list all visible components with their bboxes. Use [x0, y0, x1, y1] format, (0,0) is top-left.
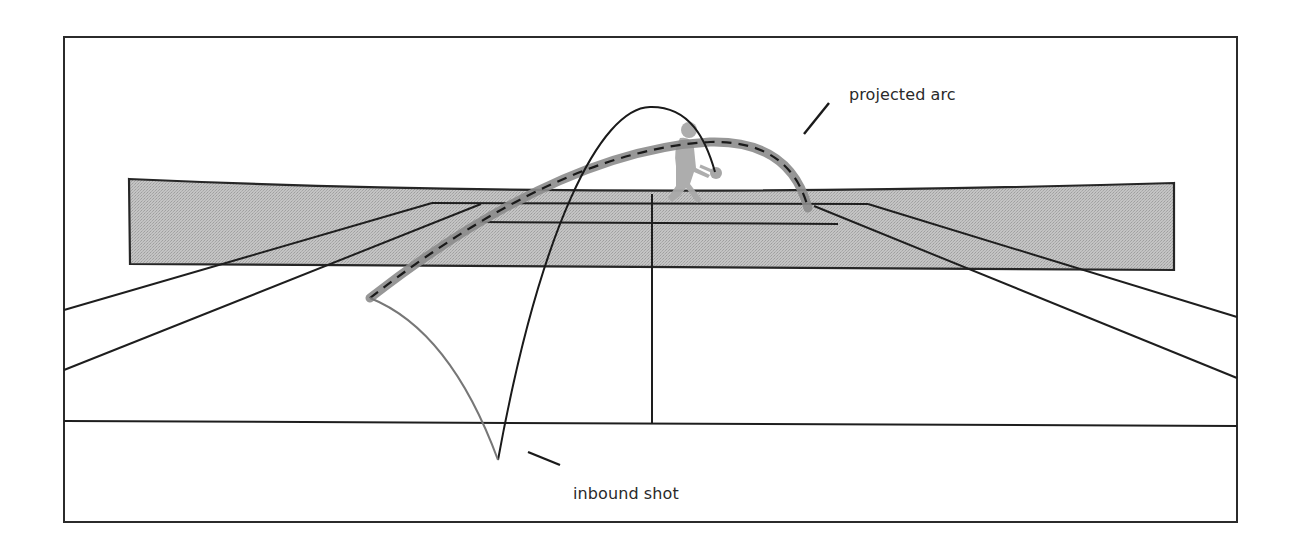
- inbound-shot-leader: [528, 452, 560, 465]
- diagram-canvas: [0, 0, 1304, 550]
- court-diagram: projected arc inbound shot: [0, 0, 1304, 550]
- projected-arc-leader: [804, 103, 829, 134]
- inbound-shot-label: inbound shot: [573, 484, 679, 503]
- inbound-shot-curve: [370, 298, 498, 460]
- frame: [64, 37, 1237, 522]
- near-baseline: [64, 421, 1237, 426]
- projected-arc-label: projected arc: [849, 85, 956, 104]
